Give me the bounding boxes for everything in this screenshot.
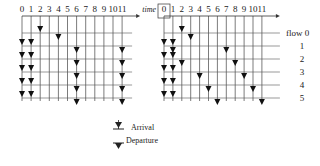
legend: Arrival Departure (113, 120, 158, 149)
time-tick-label: 8 (93, 4, 98, 14)
flow-label: 3 (300, 67, 305, 77)
departure-marker-icon (74, 47, 80, 53)
time-tick-label: 10 (109, 4, 119, 14)
time-tick-label: 0 (162, 4, 167, 14)
time-tick-label: 0 (20, 4, 25, 14)
departure-marker-icon (119, 99, 125, 105)
arrival-marker-icon (170, 65, 176, 71)
time-tick-label: 3 (47, 4, 52, 14)
departure-marker-icon (259, 99, 265, 105)
diagram-canvas: 01234567891011 01234567891011timeflow 01… (0, 0, 320, 166)
departure-legend-icon (113, 143, 124, 149)
arrival-marker-icon (19, 52, 25, 58)
departure-marker-icon (74, 60, 80, 66)
time-tick-label: 3 (188, 4, 193, 14)
departure-marker-icon (241, 73, 247, 79)
time-axis-label: time (142, 5, 156, 14)
arrival-marker-icon (161, 78, 167, 84)
left-timing-grid: 01234567891011 (19, 4, 140, 105)
time-tick-label: 4 (56, 4, 61, 14)
flow-label: 1 (300, 41, 305, 51)
departure-marker-icon (232, 60, 238, 66)
arrival-marker-icon (170, 91, 176, 97)
arrival-marker-icon (28, 91, 34, 97)
departure-marker-icon (214, 99, 220, 105)
arrival-marker-icon (161, 91, 167, 97)
departure-marker-icon (74, 73, 80, 79)
departure-marker-icon (179, 60, 185, 66)
departure-marker-icon (119, 73, 125, 79)
departure-marker-icon (250, 86, 256, 92)
time-tick-label: 9 (242, 4, 247, 14)
flow-label: 4 (300, 80, 305, 90)
arrival-marker-icon (19, 78, 25, 84)
arrival-marker-icon (161, 39, 167, 45)
arrival-marker-icon (170, 78, 176, 84)
time-tick-label: 7 (83, 4, 88, 14)
time-tick-label: 5 (206, 4, 211, 14)
arrival-legend-icon (113, 120, 124, 129)
departure-marker-icon (188, 34, 194, 40)
time-tick-label: 9 (102, 4, 107, 14)
time-tick-label: 4 (197, 4, 202, 14)
time-tick-label: 7 (224, 4, 229, 14)
arrival-marker-icon (19, 65, 25, 71)
arrival-marker-icon (28, 65, 34, 71)
flow-label: 5 (300, 93, 305, 103)
arrival-marker-icon (19, 39, 25, 45)
arrival-marker-icon (161, 52, 167, 58)
time-tick-label: 2 (180, 4, 185, 14)
flow-label: 2 (300, 54, 305, 64)
time-tick-label: 6 (74, 4, 79, 14)
departure-marker-icon (197, 73, 203, 79)
arrival-marker-icon (28, 52, 34, 58)
arrival-marker-icon (28, 39, 34, 45)
time-tick-label: 2 (38, 4, 43, 14)
time-tick-label: 8 (233, 4, 238, 14)
axis-arrow-icon (136, 14, 140, 18)
arrival-marker-icon (28, 78, 34, 84)
arrival-legend-label: Arrival (131, 123, 155, 132)
time-tick-label: 1 (171, 4, 176, 14)
arrival-marker-icon (179, 26, 185, 32)
departure-marker-icon (206, 86, 212, 92)
flow-label: flow 0 (286, 28, 310, 38)
right-timing-grid: 01234567891011timeflow 012345 (142, 4, 310, 105)
arrival-marker-icon (161, 65, 167, 71)
arrival-marker-icon (19, 91, 25, 97)
time-tick-label: 1 (29, 4, 34, 14)
time-tick-label: 11 (258, 4, 267, 14)
arrival-marker-icon (170, 39, 176, 45)
departure-marker-icon (223, 47, 229, 53)
departure-marker-icon (55, 34, 61, 40)
time-tick-label: 10 (249, 4, 259, 14)
arrival-marker-icon (37, 26, 43, 32)
time-tick-label: 5 (65, 4, 70, 14)
departure-marker-icon (119, 86, 125, 92)
departure-marker-icon (119, 60, 125, 66)
departure-legend-label: Departure (126, 136, 158, 145)
axis-arrow-icon (276, 14, 280, 18)
departure-marker-icon (74, 99, 80, 105)
departure-marker-icon (74, 86, 80, 92)
time-tick-label: 11 (118, 4, 127, 14)
departure-marker-icon (119, 47, 125, 53)
time-tick-label: 6 (215, 4, 220, 14)
